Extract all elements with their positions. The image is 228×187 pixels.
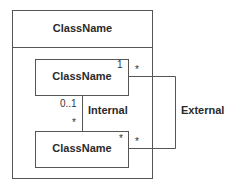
inner-class-2-multiplicity: * [119, 133, 123, 144]
internal-association-label: Internal [88, 104, 128, 116]
external-source-multiplicity: * [135, 64, 139, 75]
internal-source-multiplicity: 0..1 [60, 98, 77, 109]
outer-class-name: ClassName [12, 22, 153, 34]
external-target-multiplicity: * [135, 136, 139, 147]
inner-class-name-2: ClassName [35, 142, 129, 154]
external-association-label: External [181, 104, 224, 116]
inner-class-name-1: ClassName [35, 70, 129, 82]
internal-target-multiplicity: * [72, 117, 76, 128]
inner-class-1-multiplicity: 1 [117, 59, 123, 70]
